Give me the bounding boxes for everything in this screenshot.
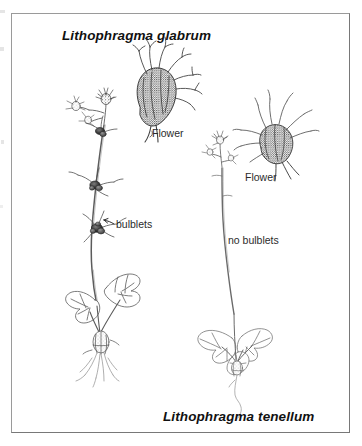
scan-artifact: [0, 10, 5, 13]
scan-artifact: [1, 140, 4, 144]
page-title-glabrum: Lithophragma glabrum: [62, 29, 211, 43]
scan-artifact: [0, 47, 4, 51]
plate-border: [11, 13, 350, 433]
caption-tenellum: Lithophragma tenellum: [163, 410, 314, 424]
illustration-plate: Lithophragma glabrum Lithophragma tenell…: [0, 0, 362, 446]
label-flower-right: Flower: [245, 172, 277, 183]
scan-artifact: [0, 205, 3, 208]
label-no-bulblets: no bulblets: [228, 235, 279, 246]
label-bulblets: bulblets: [116, 219, 152, 230]
label-flower-left: Flower: [152, 128, 184, 139]
